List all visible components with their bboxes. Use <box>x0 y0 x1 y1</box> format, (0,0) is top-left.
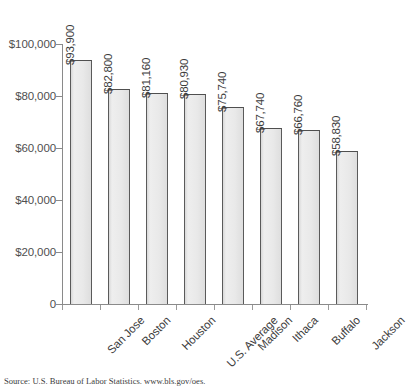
bar-houston[interactable] <box>146 93 168 304</box>
source-note: Source: U.S. Bureau of Labor Statistics.… <box>4 376 205 386</box>
x-tick-mark-6 <box>290 305 291 310</box>
x-category-label-jackson: Jackson <box>369 314 407 352</box>
x-tick-mark-2 <box>138 305 139 310</box>
bar-value-san-jose: $93,900 <box>64 25 76 65</box>
bar-us-average[interactable] <box>184 94 206 304</box>
x-axis-line <box>62 304 368 305</box>
y-tick-label-0: 0 <box>0 298 56 310</box>
x-tick-mark-1 <box>100 305 101 310</box>
y-tick-label-80000: $80,000 <box>0 90 56 102</box>
x-tick-mark-7 <box>328 305 329 310</box>
x-tick-mark-5 <box>252 305 253 310</box>
x-tick-mark-4 <box>214 305 215 310</box>
bar-value-boston: $82,800 <box>102 54 114 94</box>
bar-value-jackson: $58,830 <box>330 116 342 156</box>
y-tick-label-40000: $40,000 <box>0 194 56 206</box>
bar-boston[interactable] <box>108 89 130 304</box>
bar-value-ithaca: $67,740 <box>254 93 266 133</box>
bar-ithaca[interactable] <box>260 128 282 304</box>
bar-value-buffalo: $66,760 <box>292 95 304 135</box>
bar-value-houston: $81,160 <box>140 58 152 98</box>
x-category-label-buffalo: Buffalo <box>329 314 362 347</box>
bar-madison[interactable] <box>222 107 244 304</box>
y-tick-label-100000: $100,000 <box>0 38 56 50</box>
y-tick-label-60000: $60,000 <box>0 142 56 154</box>
x-category-label-boston: Boston <box>139 314 172 347</box>
bar-san-jose[interactable] <box>70 60 92 304</box>
x-tick-mark-8 <box>366 305 367 310</box>
x-category-label-houston: Houston <box>179 314 217 352</box>
x-tick-mark-3 <box>176 305 177 310</box>
x-category-label-ithaca: Ithaca <box>290 314 320 344</box>
bar-buffalo[interactable] <box>298 130 320 304</box>
y-tick-label-20000: $20,000 <box>0 246 56 258</box>
bar-value-madison: $75,740 <box>216 72 228 112</box>
bar-jackson[interactable] <box>336 151 358 304</box>
bar-value-us-average: $80,930 <box>178 59 190 99</box>
x-category-label-san-jose: San Jose <box>105 314 147 356</box>
x-tick-mark-0 <box>62 305 63 310</box>
